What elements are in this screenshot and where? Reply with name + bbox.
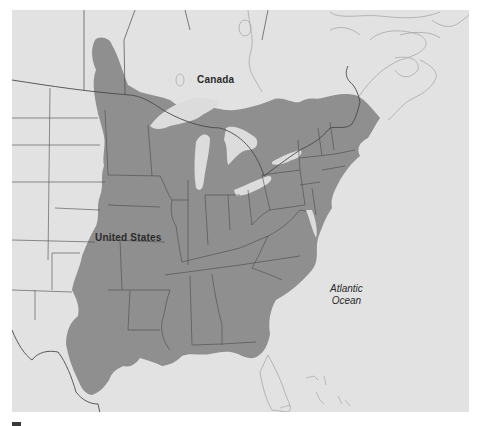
shaded-region <box>66 38 380 395</box>
map-frame: Canada United States Atlantic Ocean <box>12 10 469 412</box>
map-graphic <box>12 10 469 412</box>
bahamas-islands <box>280 376 350 408</box>
label-canada: Canada <box>197 74 234 85</box>
label-united-states: United States <box>95 232 162 243</box>
label-ocean: Ocean <box>330 295 363 307</box>
florida-outline <box>260 355 290 412</box>
caption-fragment <box>12 422 21 426</box>
label-atlantic: Atlantic <box>330 283 363 295</box>
label-atlantic-ocean: Atlantic Ocean <box>330 283 363 307</box>
